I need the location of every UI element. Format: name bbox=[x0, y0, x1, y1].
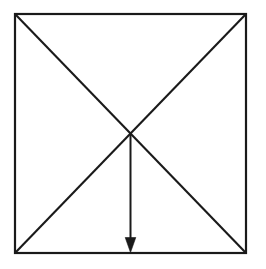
square-diagonals-arrow-diagram bbox=[0, 0, 266, 269]
figure-canvas bbox=[0, 0, 266, 269]
